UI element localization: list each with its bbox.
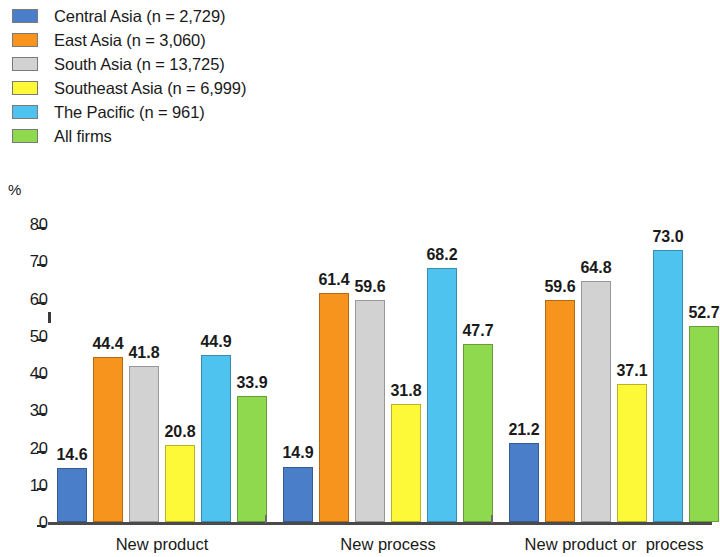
y-axis-tick-label: 50 <box>0 326 48 345</box>
x-axis-line <box>48 522 712 525</box>
y-axis-tick-mark <box>37 302 46 304</box>
bar-value-label: 59.6 <box>537 278 583 296</box>
y-axis-tick-label: 40 <box>0 364 48 383</box>
bar <box>581 281 611 522</box>
bar-value-label: 44.9 <box>193 333 239 351</box>
y-axis-tick-label: 80 <box>0 215 48 234</box>
x-axis-category-label: New product <box>116 535 209 554</box>
x-axis-group-separator-tick <box>491 515 493 523</box>
y-axis-tick-mark <box>37 525 46 527</box>
bar-value-label: 14.6 <box>49 446 95 464</box>
bar-value-label: 41.8 <box>121 344 167 362</box>
y-axis-tick-label: 10 <box>0 475 48 494</box>
legend-item-label: All firms <box>54 127 112 146</box>
bar-value-label: 68.2 <box>419 246 465 264</box>
y-axis-tick-mark <box>37 339 46 341</box>
bar <box>463 344 493 522</box>
legend-item: All firms <box>12 124 352 148</box>
bar <box>545 300 575 522</box>
bar <box>319 293 349 522</box>
bar <box>93 357 123 522</box>
legend-item-label: East Asia (n = 3,060) <box>54 31 206 50</box>
bar <box>509 443 539 522</box>
bar-value-label: 59.6 <box>347 278 393 296</box>
bar-value-label: 64.8 <box>573 259 619 277</box>
bar <box>355 300 385 522</box>
legend-item: The Pacific (n = 961) <box>12 100 352 124</box>
legend-item: East Asia (n = 3,060) <box>12 28 352 52</box>
bar-value-label: 21.2 <box>501 421 547 439</box>
y-axis-tick-label: 30 <box>0 401 48 420</box>
legend-item-label: Southeast Asia (n = 6,999) <box>54 79 246 98</box>
y-axis-tick-mark <box>37 451 46 453</box>
bar-value-label: 52.7 <box>681 304 720 322</box>
bar <box>129 366 159 522</box>
y-axis-tick-label: 0 <box>0 513 48 532</box>
legend-item: Southeast Asia (n = 6,999) <box>12 76 352 100</box>
y-axis-tick-mark <box>37 227 46 229</box>
bar <box>689 326 719 522</box>
bar <box>165 445 195 522</box>
y-axis-tick-label: 60 <box>0 289 48 308</box>
bar <box>427 268 457 522</box>
bar-value-label: 20.8 <box>157 423 203 441</box>
legend-item-label: The Pacific (n = 961) <box>54 103 205 122</box>
bar <box>237 396 267 522</box>
x-axis-category-label: New product or process <box>525 535 704 554</box>
y-axis-tick-mark <box>37 413 46 415</box>
bar <box>57 468 87 522</box>
legend-item: South Asia (n = 13,725) <box>12 52 352 76</box>
y-axis-tick-label: 70 <box>0 252 48 271</box>
legend-item: Central Asia (n = 2,729) <box>12 4 352 28</box>
x-axis-category-label: New process <box>340 535 435 554</box>
bar <box>617 384 647 522</box>
bar <box>201 355 231 522</box>
y-axis-tick-mark <box>37 376 46 378</box>
bar-value-label: 47.7 <box>455 322 501 340</box>
legend-item-label: Central Asia (n = 2,729) <box>54 7 225 26</box>
bar-value-label: 37.1 <box>609 362 655 380</box>
bar <box>391 404 421 522</box>
x-axis-group-separator-tick <box>265 515 267 523</box>
y-axis-tick-mark <box>37 264 46 266</box>
bar <box>283 467 313 523</box>
bar <box>653 250 683 522</box>
legend-item-label: South Asia (n = 13,725) <box>54 55 225 74</box>
y-axis-tick-mark <box>37 488 46 490</box>
chart-legend: Central Asia (n = 2,729)East Asia (n = 3… <box>12 4 352 148</box>
y-axis: 01020304050607080 <box>0 0 48 557</box>
bar-value-label: 73.0 <box>645 228 691 246</box>
bar-value-label: 31.8 <box>383 382 429 400</box>
bar-value-label: 33.9 <box>229 374 275 392</box>
bar-chart: Central Asia (n = 2,729)East Asia (n = 3… <box>0 0 720 557</box>
y-axis-tick-label: 20 <box>0 438 48 457</box>
y-axis-line <box>48 312 51 323</box>
bar-value-label: 14.9 <box>275 444 321 462</box>
